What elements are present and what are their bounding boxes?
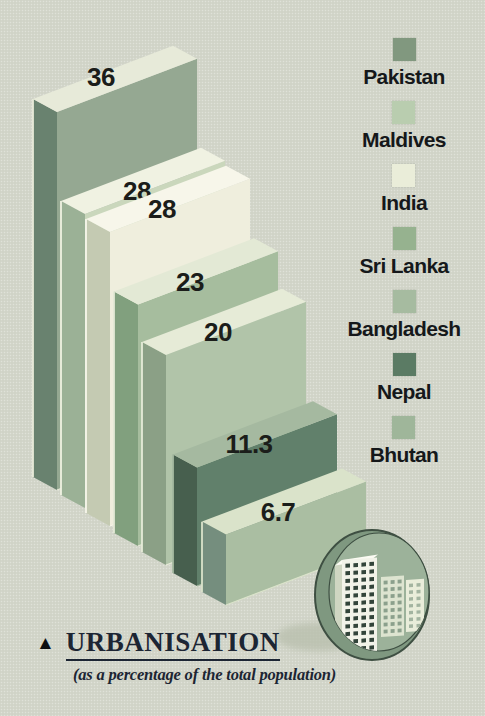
legend-label-maldives: Maldives bbox=[362, 129, 446, 151]
legend-swatch-india bbox=[392, 164, 415, 187]
title-block: ▲ URBANISATION (as a percentage of the t… bbox=[36, 627, 336, 685]
legend-label-bhutan: Bhutan bbox=[370, 444, 439, 466]
chart-page: 362828232011.36.7 bbox=[0, 0, 485, 716]
bar-side-nepal bbox=[173, 454, 197, 586]
bar-side-sri-lanka bbox=[114, 292, 138, 547]
legend-label-pakistan: Pakistan bbox=[363, 66, 445, 88]
bars-group: 362828232011.36.7 bbox=[33, 46, 366, 605]
legend-swatch-maldives bbox=[392, 101, 415, 124]
legend-label-nepal: Nepal bbox=[377, 381, 431, 403]
bar-side-india bbox=[86, 219, 110, 526]
legend-label-india: India bbox=[381, 192, 427, 214]
legend-swatch-bangladesh bbox=[393, 290, 416, 313]
value-label-india: 28 bbox=[148, 194, 176, 224]
value-label-bhutan: 6.7 bbox=[261, 497, 296, 527]
legend-swatch-sri-lanka bbox=[393, 227, 416, 250]
legend-item-nepal: Nepal bbox=[377, 353, 431, 403]
legend-label-sri-lanka: Sri Lanka bbox=[359, 255, 448, 277]
bar-side-bhutan bbox=[202, 522, 226, 605]
page-subtitle: (as a percentage of the total population… bbox=[73, 665, 336, 685]
value-label-pakistan: 36 bbox=[87, 62, 115, 92]
legend: PakistanMaldivesIndiaSri LankaBangladesh… bbox=[344, 38, 464, 479]
legend-item-bangladesh: Bangladesh bbox=[347, 290, 460, 340]
value-label-sri-lanka: 23 bbox=[176, 267, 204, 297]
bar-side-pakistan bbox=[33, 99, 57, 490]
legend-item-sri-lanka: Sri Lanka bbox=[359, 227, 448, 277]
mid-building bbox=[381, 575, 404, 637]
bar-side-bangladesh bbox=[142, 342, 166, 565]
legend-item-bhutan: Bhutan bbox=[370, 416, 439, 466]
value-label-bangladesh: 20 bbox=[204, 317, 232, 347]
page-title: URBANISATION bbox=[66, 627, 280, 661]
legend-item-india: India bbox=[381, 164, 427, 214]
bar-side-maldives bbox=[61, 201, 85, 508]
legend-swatch-nepal bbox=[393, 353, 416, 376]
legend-item-maldives: Maldives bbox=[362, 101, 446, 151]
legend-swatch-pakistan bbox=[393, 38, 416, 61]
value-label-nepal: 11.3 bbox=[225, 429, 272, 459]
legend-item-pakistan: Pakistan bbox=[363, 38, 445, 88]
legend-swatch-bhutan bbox=[392, 416, 415, 439]
triangle-marker-icon: ▲ bbox=[36, 633, 55, 652]
legend-label-bangladesh: Bangladesh bbox=[347, 318, 460, 340]
